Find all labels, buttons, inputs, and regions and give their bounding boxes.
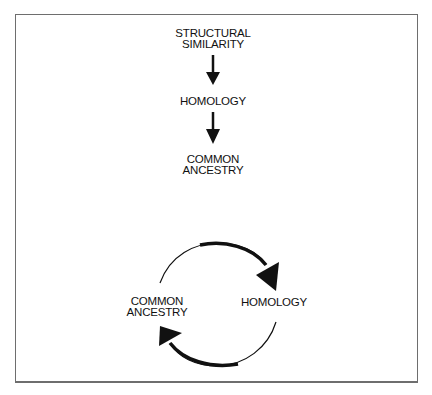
arrows-layer bbox=[0, 0, 432, 395]
down-arrow-icon bbox=[206, 55, 220, 85]
cycle-arc-arrow-top-icon bbox=[160, 243, 279, 291]
down-arrow-icon bbox=[206, 112, 220, 144]
cycle-arc-arrow-bottom-icon bbox=[159, 322, 276, 366]
